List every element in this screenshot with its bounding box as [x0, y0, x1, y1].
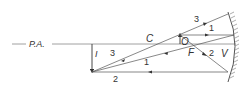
focus-label: F: [188, 47, 195, 58]
principal-axis-label: P.A.: [29, 39, 45, 49]
ray1-label-reflected: 1: [144, 57, 149, 67]
center-label: C: [146, 33, 154, 44]
concave-mirror: [228, 12, 239, 82]
ray3-label-incident: 3: [194, 14, 199, 24]
image-label: I: [95, 49, 98, 59]
ray-3: [92, 14, 228, 72]
ray-diagram: P.A.: [0, 0, 251, 90]
ray2-label-reflected: 2: [113, 74, 118, 84]
vertex-label: V: [221, 48, 229, 59]
ray3-label-reflected: 3: [110, 48, 115, 58]
ray1-label-incident: 1: [209, 23, 214, 33]
ray2-label-incident: 2: [209, 48, 214, 58]
object-label: O: [181, 36, 189, 47]
